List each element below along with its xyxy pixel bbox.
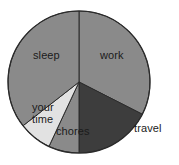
- pie-chart-figure: sleep work travel yourtime chores: [0, 0, 179, 165]
- pie-chart-canvas: [0, 0, 179, 165]
- pie-slices-group: [8, 11, 150, 153]
